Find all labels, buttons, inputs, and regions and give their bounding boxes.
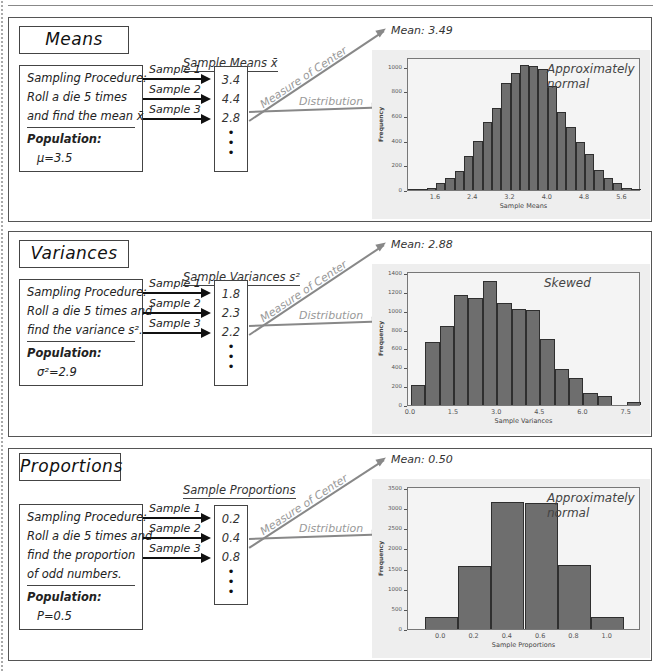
histogram-bar: [591, 617, 624, 629]
sample-label: Sample 2: [149, 522, 201, 535]
procedure-line: find the variance s².: [27, 321, 135, 340]
x-tick-label: 1.5: [443, 408, 463, 416]
histogram-bar: [598, 396, 612, 405]
annotation-line: normal: [547, 506, 635, 521]
arrow-right-icon: [143, 292, 209, 294]
y-tick-label: 0: [380, 187, 402, 193]
y-tick-label: 2500: [380, 525, 402, 531]
histogram-bar: [454, 295, 468, 405]
y-tick-mark: [404, 368, 407, 369]
histogram-bar: [425, 617, 458, 629]
histogram-bar: [417, 189, 426, 190]
y-tick-mark: [404, 92, 407, 93]
procedure-line: Roll a die 5 times and: [27, 527, 135, 546]
arrow-right-icon: [143, 118, 209, 120]
mean-value-label: Mean: 0.50: [391, 453, 453, 466]
population-value: σ²=2.9: [27, 363, 135, 382]
histogram-bar: [497, 303, 511, 405]
sample-label: Sample 3: [149, 103, 201, 116]
histogram-bar: [529, 66, 538, 190]
x-tick-label: 4.0: [537, 193, 557, 201]
population-label: Population:: [27, 588, 135, 607]
histogram-bar: [455, 171, 464, 190]
distribution-label: Distribution: [299, 309, 363, 322]
histogram-bar: [464, 156, 473, 190]
histogram-bar: [473, 141, 482, 190]
annotation-line: normal: [547, 77, 635, 92]
y-tick-label: 800: [380, 88, 402, 94]
y-tick-label: 3000: [380, 505, 402, 511]
divider: [27, 127, 135, 128]
histogram-bar: [558, 565, 591, 629]
histogram-bar: [540, 339, 554, 405]
y-tick-mark: [404, 293, 407, 294]
x-tick-label: 5.6: [611, 193, 631, 201]
plot-area: [407, 272, 640, 406]
y-tick-mark: [404, 630, 407, 631]
arrow-right-icon: [143, 312, 209, 314]
y-tick-mark: [404, 68, 407, 69]
histogram-bar: [492, 108, 501, 190]
histogram-bar: [557, 112, 566, 190]
arrow-right-icon: [143, 78, 209, 80]
histogram-bar: [468, 298, 482, 405]
histogram-bar: [526, 310, 540, 405]
y-tick-label: 0: [380, 402, 402, 408]
x-axis-label: Sample Variances: [407, 417, 640, 425]
histogram-bar: [566, 127, 575, 190]
y-tick-mark: [404, 142, 407, 143]
histogram-bar: [512, 309, 526, 405]
y-tick-mark: [404, 166, 407, 167]
procedure-line: Roll a die 5 times and: [27, 302, 135, 321]
x-tick-label: 1.6: [425, 193, 445, 201]
x-tick-label: 2.4: [462, 193, 482, 201]
ellipsis-dot-icon: •: [215, 587, 247, 597]
panel-title: Means: [19, 26, 129, 54]
y-tick-label: 1000: [380, 586, 402, 592]
histogram-bar: [569, 378, 583, 405]
divider: [27, 585, 135, 586]
procedure-line: Sampling Procedure:: [27, 508, 135, 527]
histogram-bar: [555, 369, 569, 405]
sample-value: 2.3: [215, 304, 247, 323]
histogram-variances: 02004006008001000120014000.01.53.04.56.0…: [372, 264, 650, 434]
histogram-bar: [548, 86, 557, 190]
annotation-line: Approximately: [547, 62, 635, 77]
distribution-shape-annotation: Approximatelynormal: [547, 62, 635, 92]
histogram-bar: [583, 393, 597, 405]
procedure-line: and find the mean x̄.: [27, 107, 135, 126]
distribution-label: Distribution: [299, 95, 363, 108]
population-label: Population:: [27, 344, 135, 363]
sample-values-box: 1.82.32.2•••: [214, 280, 248, 386]
y-axis-label: Frequency: [377, 319, 384, 359]
x-tick-label: 0.0: [400, 408, 420, 416]
y-tick-mark: [404, 349, 407, 350]
y-tick-mark: [404, 590, 407, 591]
histogram-bar: [585, 154, 594, 190]
y-tick-label: 1400: [380, 270, 402, 276]
x-tick-label: 0.8: [563, 632, 583, 640]
sample-value: 3.4: [215, 71, 247, 90]
y-tick-mark: [404, 570, 407, 571]
y-tick-label: 1000: [380, 308, 402, 314]
histogram-bar: [483, 281, 497, 405]
ellipsis-dot-icon: •: [215, 148, 247, 158]
distribution-shape-annotation: Skewed: [544, 276, 591, 291]
histogram-bar: [408, 189, 417, 190]
histogram-bar: [427, 188, 436, 190]
population-value: μ=3.5: [27, 149, 135, 168]
y-tick-label: 500: [380, 606, 402, 612]
sample-value: 0.2: [215, 510, 247, 529]
x-axis-label: Sample Means: [407, 202, 640, 210]
sample-values-box: 3.44.42.8•••: [214, 66, 248, 172]
x-axis-label: Sample Proportions: [407, 641, 640, 649]
x-tick-label: 0.4: [497, 632, 517, 640]
x-tick-label: 0.2: [464, 632, 484, 640]
panel-proportions: ProportionsSample ProportionsSampling Pr…: [8, 448, 652, 661]
sampling-procedure-box: Sampling Procedure:Roll a die 5 times an…: [19, 279, 143, 386]
histogram-bar: [594, 170, 603, 190]
x-tick-label: 3.0: [486, 408, 506, 416]
histogram-bar: [411, 385, 425, 405]
arrow-right-icon: [143, 557, 209, 559]
sample-label: Sample 2: [149, 297, 201, 310]
